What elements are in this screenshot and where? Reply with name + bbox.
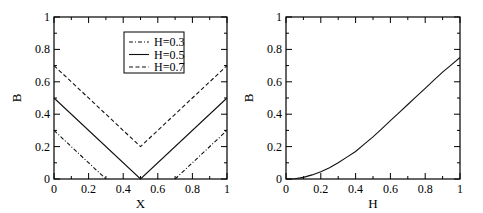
left-plot: 00.20.40.60.8100.20.40.60.81XBH=0.3H=0.5… [9, 10, 230, 211]
y-tick-label: 0 [276, 172, 282, 186]
plot-frame [286, 17, 460, 179]
y-tick-label: 0.2 [35, 140, 50, 154]
x-tick-label: 0.4 [116, 182, 131, 196]
series-line-h-0-5 [54, 98, 227, 179]
y-tick-label: 0.2 [267, 140, 282, 154]
legend-label: H=0.7 [154, 60, 184, 74]
x-tick-label: 0 [283, 182, 289, 196]
legend: H=0.3H=0.5H=0.7 [124, 32, 184, 74]
series-line-b-h- [286, 58, 460, 180]
series-line-h-0-3 [54, 130, 106, 179]
y-axis-label: B [241, 93, 256, 102]
x-tick-label: 1 [224, 182, 230, 196]
chart-canvas: 00.20.40.60.8100.20.40.60.81XBH=0.3H=0.5… [0, 0, 483, 213]
x-axis-label: X [136, 196, 146, 211]
y-axis-label: B [9, 93, 24, 102]
y-tick-label: 1 [44, 10, 50, 24]
x-axis-label: H [368, 196, 377, 211]
right-plot: 00.20.40.60.8100.20.40.60.81HB [241, 10, 463, 211]
y-tick-label: 0.4 [35, 107, 50, 121]
x-tick-label: 1 [457, 182, 463, 196]
x-tick-label: 0.6 [150, 182, 165, 196]
x-tick-label: 0.2 [313, 182, 328, 196]
y-tick-label: 0.4 [267, 107, 282, 121]
x-tick-label: 0.8 [418, 182, 433, 196]
x-tick-label: 0.4 [348, 182, 363, 196]
x-tick-label: 0.8 [185, 182, 200, 196]
y-tick-label: 0.8 [35, 42, 50, 56]
y-tick-label: 0.6 [267, 75, 282, 89]
x-tick-label: 0 [51, 182, 57, 196]
series-line-h-0-3 [175, 130, 227, 179]
y-tick-label: 0 [44, 172, 50, 186]
y-tick-label: 0.8 [267, 42, 282, 56]
y-tick-label: 1 [276, 10, 282, 24]
x-tick-label: 0.2 [81, 182, 96, 196]
x-tick-label: 0.6 [383, 182, 398, 196]
y-tick-label: 0.6 [35, 75, 50, 89]
series-line-h-0-7 [54, 66, 227, 147]
